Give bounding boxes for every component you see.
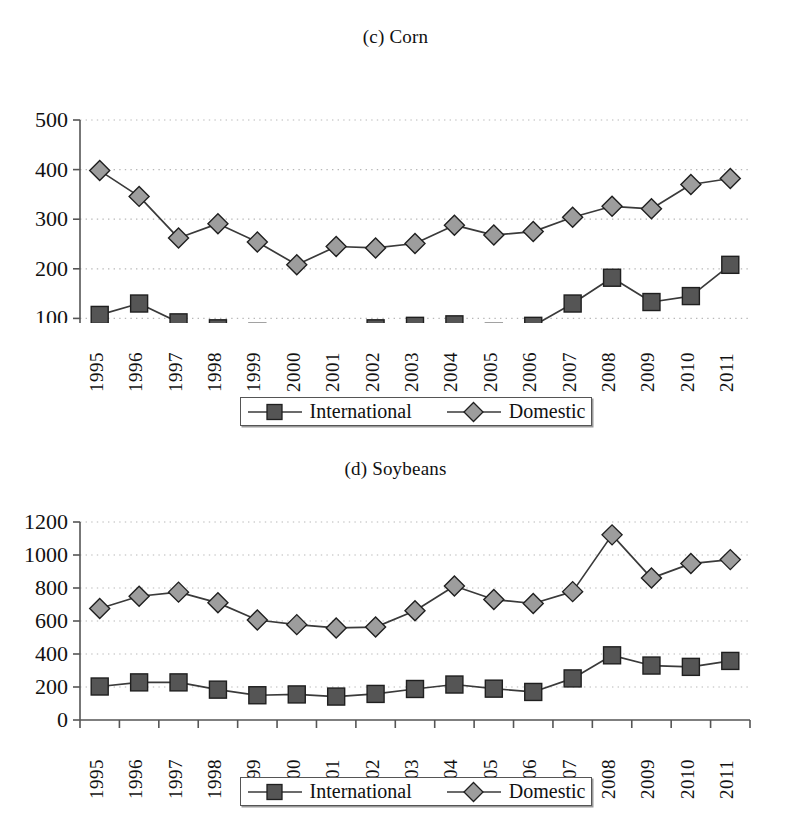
x-axis-tick-label: 1996 [125,352,147,392]
data-point-marker [682,288,699,305]
x-axis-tick-label: 2008 [598,759,620,799]
data-point-marker [525,317,542,323]
x-axis-tick-label: 1995 [86,759,108,799]
data-point-marker [208,214,228,234]
y-axis-tick-label: 1000 [24,542,68,567]
data-point-marker [444,576,464,596]
data-point-marker [446,316,463,323]
legend-soybeans: International Domestic [240,777,592,806]
data-point-marker [604,647,621,664]
data-point-marker [170,674,187,691]
y-axis-tick-label: 500 [35,107,68,132]
x-axis-tick-label: 1995 [86,352,108,392]
data-point-marker [367,320,384,323]
x-axis-tick-label: 2008 [598,352,620,392]
legend-square-marker-icon [247,402,303,422]
legend-label-international: International [310,780,412,803]
y-axis-tick-label: 400 [35,641,68,666]
data-point-marker [682,658,699,675]
x-axis-tick-label: 2004 [440,352,462,392]
data-point-marker [367,685,384,702]
x-axis-tick-label: 2001 [322,352,344,392]
x-axis-tick-label: 2010 [677,352,699,392]
y-axis-tick-label: 1200 [24,509,68,534]
data-point-marker [326,236,346,256]
data-point-marker [444,215,464,235]
corn-plot-svg: 0100200300400500 [0,48,791,323]
legend-entry-domestic: Domestic [446,400,586,423]
data-point-marker [247,232,267,252]
x-axis-tick-label: 1996 [125,759,147,799]
data-point-marker [170,314,187,323]
x-axis-tick-label: 2002 [362,352,384,392]
legend-diamond-marker-icon [446,781,502,803]
data-point-marker [91,306,108,323]
x-axis-tick-label: 2006 [519,352,541,392]
panel-corn: (c) Corn 0100200300400500 19951996199719… [0,0,791,440]
data-point-marker [208,593,228,613]
legend-label-international: International [310,400,412,423]
x-axis-tick-label: 2000 [283,352,305,392]
soybeans-plot-svg: 020040060080010001200 [0,480,791,730]
data-point-marker [328,688,345,705]
data-point-marker [681,554,701,574]
data-point-marker [209,681,226,698]
x-axis-tick-label: 2005 [480,352,502,392]
y-axis-tick-label: 300 [35,206,68,231]
x-axis-labels-corn: 1995199619971998199920002001200220032004… [0,330,791,392]
data-point-marker [326,618,346,638]
data-point-marker [641,199,661,219]
data-point-marker [564,670,581,687]
x-axis-tick-label: 2011 [716,760,738,799]
data-point-marker [523,594,543,614]
data-point-marker [405,601,425,621]
data-point-marker [720,169,740,189]
data-point-marker [209,320,226,323]
legend-corn: International Domestic [240,397,592,426]
data-point-marker [366,617,386,637]
legend-square-marker-icon [247,782,303,802]
data-point-marker [407,317,424,323]
y-axis-tick-label: 600 [35,608,68,633]
data-point-marker [681,174,701,194]
legend-entry-international: International [247,400,412,423]
plot-area-corn: 0100200300400500 [0,48,791,323]
plot-area-soybeans: 020040060080010001200 [0,480,791,730]
data-point-marker [366,238,386,258]
data-point-marker [129,586,149,606]
x-axis-tick-label: 2009 [637,759,659,799]
data-point-marker [720,550,740,570]
x-axis-tick-label: 2011 [716,353,738,392]
data-point-marker [563,582,583,602]
data-point-marker [405,234,425,254]
data-point-marker [131,674,148,691]
legend-label-domestic: Domestic [509,400,586,423]
data-point-marker [485,680,502,697]
y-axis-tick-label: 800 [35,575,68,600]
series-line-international [100,265,731,323]
y-axis-tick-label: 200 [35,674,68,699]
legend-diamond-marker-icon [446,401,502,423]
data-point-marker [722,652,739,669]
y-axis-tick-label: 400 [35,157,68,182]
data-point-marker [563,207,583,227]
data-point-marker [446,676,463,693]
data-point-marker [287,615,307,635]
legend-label-domestic: Domestic [509,780,586,803]
y-axis-tick-label: 100 [35,305,68,323]
x-axis-tick-label: 1998 [204,352,226,392]
data-point-marker [722,256,739,273]
x-axis-tick-label: 1999 [243,352,265,392]
data-point-marker [602,196,622,216]
data-point-marker [525,683,542,700]
chart-title-soybeans: (d) Soybeans [0,440,791,480]
x-axis-tick-label: 2003 [401,352,423,392]
data-point-marker [484,590,504,610]
data-point-marker [643,294,660,311]
data-point-marker [91,678,108,695]
data-point-marker [247,610,267,630]
data-point-marker [249,687,266,704]
x-axis-tick-label: 1998 [204,759,226,799]
data-point-marker [131,295,148,312]
legend-entry-international: International [247,780,412,803]
